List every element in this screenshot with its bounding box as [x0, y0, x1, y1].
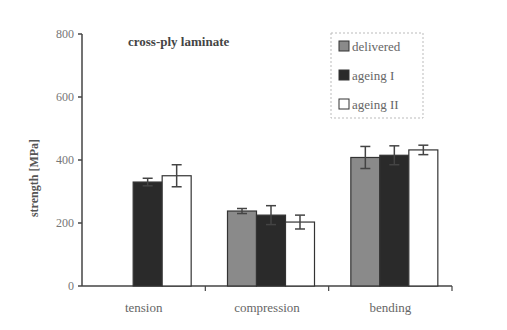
y-tick-label: 400	[56, 153, 74, 167]
legend-label-delivered: delivered	[352, 39, 401, 54]
x-category-label: compression	[234, 300, 300, 315]
x-category-label: bending	[369, 300, 411, 315]
bar-delivered	[228, 211, 257, 286]
y-tick-label: 600	[56, 90, 74, 104]
y-tick-label: 0	[68, 279, 74, 293]
y-tick-label: 200	[56, 216, 74, 230]
legend-swatch-ageing-i	[339, 70, 349, 80]
bar-ageing-ii	[162, 176, 191, 286]
bar-ageing-i	[257, 215, 286, 286]
legend: delivered ageing I ageing II	[331, 33, 423, 118]
y-axis-label: strength [MPa]	[27, 139, 41, 217]
legend-label-ageing-ii: ageing II	[352, 97, 399, 112]
bar-delivered	[351, 157, 380, 286]
bars	[133, 145, 438, 286]
bar-ageing-i	[380, 155, 409, 286]
legend-swatch-delivered	[339, 41, 349, 51]
bar-chart: 0200400600800tensioncompressionbending c…	[0, 0, 507, 330]
y-tick-label: 800	[56, 27, 74, 41]
x-category-label: tension	[125, 300, 163, 315]
legend-swatch-ageing-ii	[339, 99, 349, 109]
bar-ageing-i	[133, 182, 162, 286]
legend-label-ageing-i: ageing I	[352, 68, 394, 83]
bar-ageing-ii	[286, 222, 315, 286]
chart-title: cross-ply laminate	[128, 34, 229, 49]
bar-ageing-ii	[409, 150, 438, 286]
